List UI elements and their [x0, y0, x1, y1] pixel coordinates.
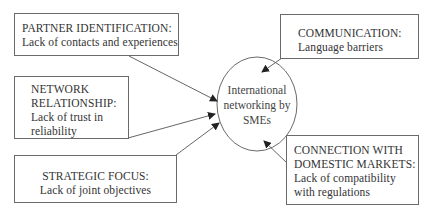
node-network-relationship: NETWORK RELATIONSHIP: Lack of trust in r… [14, 76, 129, 139]
node-communication: COMMUNICATION: Language barriers [280, 14, 419, 59]
node-text-line-1: Lack of compatibility [294, 171, 418, 185]
node-text: Language barriers [298, 40, 418, 54]
node-title: STRATEGIC FOCUS: [15, 169, 176, 183]
node-title-line-1: CONNECTION WITH [294, 143, 418, 157]
node-strategic-focus: STRATEGIC FOCUS: Lack of joint objective… [14, 155, 177, 203]
node-connection-domestic-markets: CONNECTION WITH DOMESTIC MARKETS: Lack o… [286, 135, 419, 205]
node-title: PARTNER IDENTIFICATION: [22, 21, 178, 35]
node-text-line-2: reliability [31, 124, 128, 138]
node-partner-identification: PARTNER IDENTIFICATION: Lack of contacts… [14, 13, 179, 56]
center-line-2: networking [224, 99, 276, 111]
arrow-strategic [176, 123, 219, 155]
node-title-line-2: DOMESTIC MARKETS: [294, 157, 418, 171]
node-text-line-2: with regulations [294, 185, 418, 199]
center-line-1: International [228, 84, 287, 96]
center-node: International networking by SMEs [217, 83, 297, 128]
node-title-line-2: RELATIONSHIP: [31, 96, 128, 110]
arrow-partner [129, 56, 217, 101]
arrow-network [128, 114, 215, 138]
node-title-line-1: NETWORK [31, 82, 128, 96]
node-text-line-1: Lack of trust in [31, 110, 128, 124]
node-text: Lack of contacts and experiences [22, 35, 178, 49]
arrow-connection [264, 141, 287, 163]
node-text: Lack of joint objectives [15, 183, 176, 197]
node-title: COMMUNICATION: [298, 26, 418, 40]
